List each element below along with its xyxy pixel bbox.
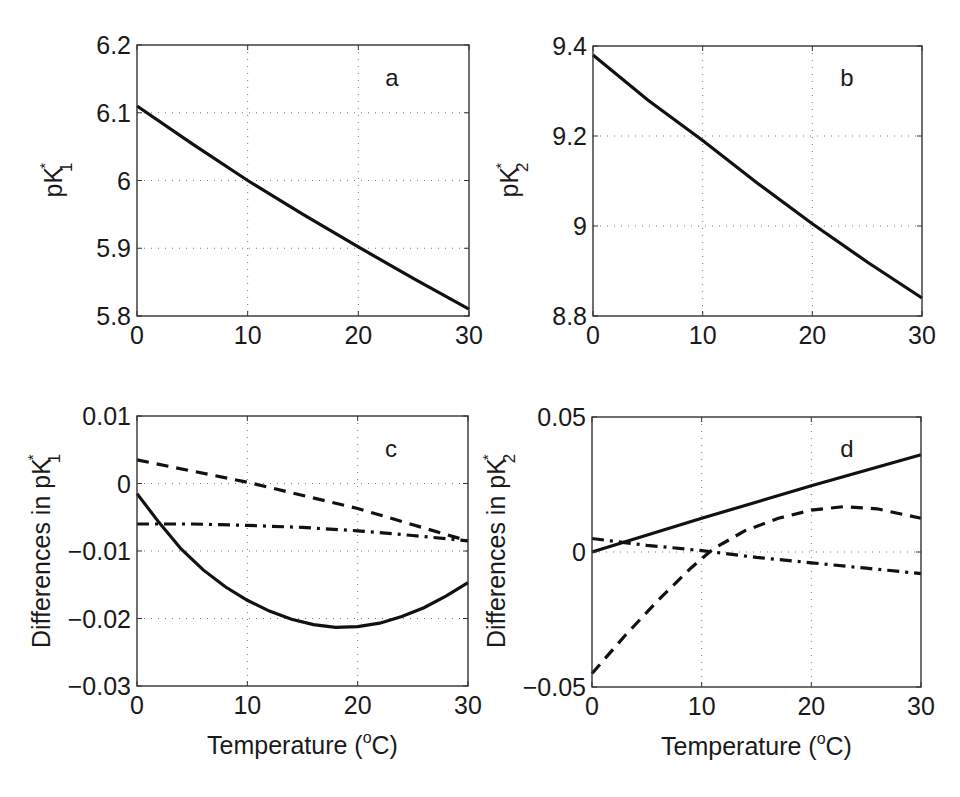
y-axis-label: Differences in pK*2 xyxy=(479,454,519,648)
panel-c-pk1-differences-plot: 01020300.010−0.01−0.02−0.03cDifferences … xyxy=(24,402,482,759)
panel-letter-label: c xyxy=(385,435,397,462)
y-tick-label: 5.8 xyxy=(96,302,131,330)
gridlines xyxy=(592,417,921,687)
y-tick-label: −0.01 xyxy=(68,537,131,565)
panel-letter-label: b xyxy=(840,64,853,91)
panel-b-pk2-plot: 01020309.49.298.8bpK*2 xyxy=(492,32,936,349)
x-tick-label: 0 xyxy=(586,321,600,349)
gridlines xyxy=(137,45,469,316)
panel-letter-label: a xyxy=(385,64,399,91)
x-tick-label: 30 xyxy=(908,321,936,349)
y-tick-label: 9 xyxy=(573,212,587,240)
x-tick-label: 30 xyxy=(455,321,483,349)
y-axis-label: pK*1 xyxy=(36,163,76,198)
y-tick-label: 0.01 xyxy=(82,402,131,430)
series-pk-2-line xyxy=(593,55,922,298)
x-tick-label: 30 xyxy=(454,691,482,719)
x-tick-label: 20 xyxy=(344,321,372,349)
y-tick-label: −0.03 xyxy=(68,672,131,700)
gridlines xyxy=(137,416,468,686)
y-tick-label: 6 xyxy=(117,167,131,195)
gridlines xyxy=(593,46,922,316)
x-tick-label: 0 xyxy=(585,692,599,720)
x-tick-label: 10 xyxy=(688,692,716,720)
y-tick-label: 5.9 xyxy=(96,234,131,262)
panel-letter-label: d xyxy=(840,435,853,462)
axes-frame xyxy=(593,46,922,316)
x-tick-label: 30 xyxy=(907,692,935,720)
x-tick-label: 20 xyxy=(797,692,825,720)
x-tick-label: 10 xyxy=(689,321,717,349)
y-tick-label: 0.05 xyxy=(537,403,586,431)
series-pk-1-line xyxy=(137,106,469,309)
y-tick-label: 0 xyxy=(572,538,586,566)
y-axis-label: pK*2 xyxy=(492,163,532,198)
y-tick-label: 9.2 xyxy=(552,122,587,150)
panel-d-pk2-differences-plot: 01020300.050−0.05dDifferences in pK*2Tem… xyxy=(479,403,935,760)
series-dash-dot-line xyxy=(592,539,921,574)
x-tick-label: 20 xyxy=(798,321,826,349)
figure-canvas: 01020306.26.165.95.8apK*1 01020309.49.29… xyxy=(0,0,960,797)
series-dashed-line xyxy=(592,507,921,674)
y-tick-label: 9.4 xyxy=(552,32,587,60)
x-tick-label: 20 xyxy=(344,691,372,719)
x-tick-label: 0 xyxy=(130,321,144,349)
series-solid-line xyxy=(137,494,468,628)
y-tick-label: −0.02 xyxy=(68,605,131,633)
y-axis-label: Differences in pK*1 xyxy=(24,454,64,648)
y-tick-label: 6.2 xyxy=(96,31,131,59)
x-tick-label: 10 xyxy=(233,691,261,719)
x-tick-label: 10 xyxy=(234,321,262,349)
x-axis-label: Temperature (oC) xyxy=(661,730,852,760)
x-tick-label: 0 xyxy=(130,691,144,719)
series-solid-line xyxy=(592,455,921,552)
x-axis-label: Temperature (oC) xyxy=(207,729,398,759)
y-tick-label: −0.05 xyxy=(523,673,586,701)
y-tick-label: 6.1 xyxy=(96,99,131,127)
y-tick-label: 8.8 xyxy=(552,302,587,330)
panel-a-pk1-plot: 01020306.26.165.95.8apK*1 xyxy=(36,31,483,349)
y-tick-label: 0 xyxy=(117,470,131,498)
